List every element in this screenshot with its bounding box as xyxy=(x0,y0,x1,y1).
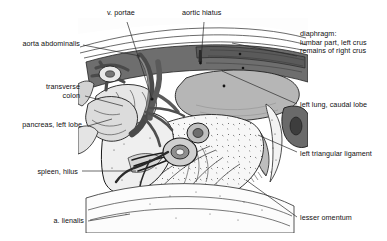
spleen-hilus-label: spleen, hilus xyxy=(16,168,78,177)
right-pleural-strip xyxy=(266,104,282,182)
diaphragm-label: diaphragm: lumbar part, left crus remain… xyxy=(300,30,367,56)
anatomical-figure: v. portae aortic hiatus aorta abdominali… xyxy=(0,0,387,241)
transverse-colon-label-line-2: colon xyxy=(16,92,80,101)
left-cut-fragment-lower xyxy=(78,126,98,154)
left-lung-ref-dot xyxy=(223,85,226,88)
illustration-body xyxy=(78,18,308,233)
organ-lumen xyxy=(176,149,184,155)
vessel-cross-section-inner xyxy=(193,129,203,138)
v-portae-label: v. portae xyxy=(107,9,135,18)
right-organ-core xyxy=(290,117,302,135)
transverse-colon-label: transverse colon xyxy=(16,83,80,100)
aortic-hiatus-label: aortic hiatus xyxy=(182,9,221,18)
body-wall-background xyxy=(78,18,308,36)
diaphragm-ref-dot-1 xyxy=(239,53,242,56)
left-lung-caudal-lobe-label: left lung, caudal lobe xyxy=(300,101,367,110)
a-lienalis-label: a. lienalis xyxy=(38,217,84,226)
diaphragm-label-line-3: remains of right crus xyxy=(300,47,367,56)
pancreas-left-lobe-label: pancreas, left lobe xyxy=(10,121,82,130)
aortic-hiatus-dot xyxy=(199,62,202,65)
lesser-omentum-label: lesser omentum xyxy=(300,214,352,223)
bulb-core xyxy=(106,71,115,77)
left-triangular-ligament-label: left triangular ligament xyxy=(300,150,372,159)
diaphragm-ref-dot-2 xyxy=(242,67,245,70)
aorta-abdominalis-label: aorta abdominalis xyxy=(16,40,80,49)
